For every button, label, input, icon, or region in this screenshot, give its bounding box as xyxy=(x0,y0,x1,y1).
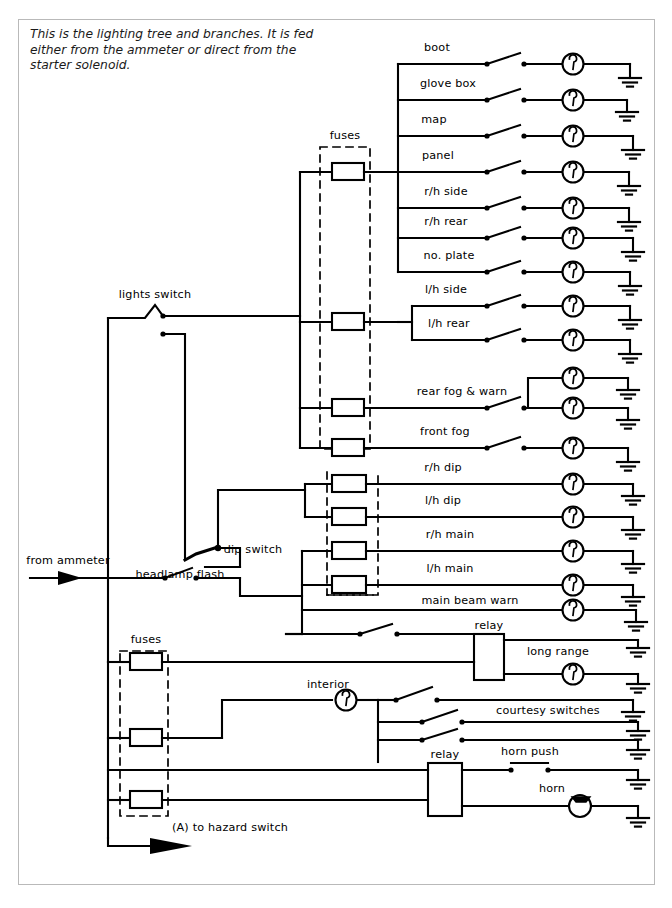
label-lh-side: l/h side xyxy=(425,283,467,296)
label-lh-dip: l/h dip xyxy=(425,494,461,507)
label-rh-main: r/h main xyxy=(426,528,475,541)
label-relay-horn: relay xyxy=(431,748,460,761)
label-lh-rear: l/h rear xyxy=(428,317,470,330)
main-feed-rail xyxy=(302,542,562,634)
label-long-range: long range xyxy=(527,645,589,658)
lh-branch-rail xyxy=(398,306,412,340)
diagram-page: This is the lighting tree and branches. … xyxy=(0,0,672,908)
label-from-ammeter: from ammeter xyxy=(26,554,110,567)
label-hazard-switch: (A) to hazard switch xyxy=(172,821,288,834)
circuit-lh-rear xyxy=(412,329,641,363)
lower-fuse-feeds xyxy=(108,653,474,808)
headlamp-lamps xyxy=(563,474,648,631)
label-horn: horn xyxy=(539,782,565,795)
label-front-fog: front fog xyxy=(420,425,470,438)
label-headlamp-flash: headlamp flash xyxy=(135,568,224,581)
label-boot: boot xyxy=(424,41,450,54)
label-horn-push: horn push xyxy=(501,745,559,758)
label-glove-box: glove box xyxy=(420,77,476,90)
label-panel: panel xyxy=(422,149,454,162)
label-interior: interior xyxy=(307,678,349,691)
label-rh-dip: r/h dip xyxy=(424,461,462,474)
label-rh-side: r/h side xyxy=(424,185,468,198)
long-range-relay xyxy=(108,624,649,693)
label-courtesy-switches: courtesy switches xyxy=(496,704,600,717)
label-rh-rear: r/h rear xyxy=(424,215,468,228)
label-fuses-upper: fuses xyxy=(330,129,361,142)
label-lights-switch: lights switch xyxy=(119,288,192,301)
dip-feed-rail xyxy=(218,475,562,548)
horn-symbol xyxy=(569,795,591,817)
horn-circuit xyxy=(108,763,649,827)
feed-from-ammeter xyxy=(30,318,108,838)
lights-switch[interactable] xyxy=(108,305,300,560)
label-main-beam-warn: main beam warn xyxy=(421,594,518,607)
label-dip-switch: dip switch xyxy=(224,543,283,556)
circuit-rear-fog-warn xyxy=(412,368,639,429)
label-relay-long-range: relay xyxy=(475,619,504,632)
label-map: map xyxy=(421,113,446,126)
upper-fuse-feeds xyxy=(300,163,412,456)
label-fuses-lower: fuses xyxy=(131,633,162,646)
label-lh-main: l/h main xyxy=(426,562,473,575)
label-rear-fog-warn: rear fog & warn xyxy=(417,385,507,398)
hazard-feed xyxy=(108,838,192,854)
wiring-diagram-svg: boot glove box map panel r/h side r/h re… xyxy=(0,0,672,908)
label-no-plate: no. plate xyxy=(424,249,475,262)
